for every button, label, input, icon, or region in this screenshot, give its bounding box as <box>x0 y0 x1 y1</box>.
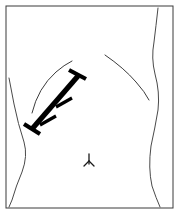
anatomical-figure-panel <box>0 0 180 215</box>
anatomical-line-drawing <box>0 0 180 215</box>
panel-border <box>6 6 173 208</box>
